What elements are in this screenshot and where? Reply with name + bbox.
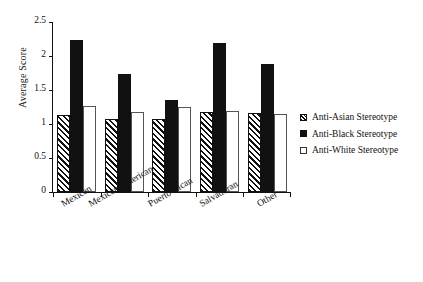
x-label-cell: Other	[242, 196, 290, 262]
bar-group	[243, 22, 291, 192]
legend-item: Anti-White Stereotype	[300, 145, 423, 155]
bar-groups	[53, 22, 291, 192]
bar-solid	[165, 100, 178, 192]
bar-hatched	[105, 119, 118, 192]
bar-hatched	[200, 112, 213, 192]
bar-group	[101, 22, 149, 192]
y-tick-label: 0	[41, 185, 46, 195]
legend-label: Anti-Black Stereotype	[312, 129, 397, 139]
bar-group	[196, 22, 244, 192]
y-tick-label: 2	[41, 49, 46, 59]
x-axis-labels: MexicanMexican AmericanPuerto RicanSalva…	[52, 196, 290, 262]
bar-solid	[213, 43, 226, 192]
legend-label: Anti-White Stereotype	[312, 145, 398, 155]
x-label-cell: Puerto Rican	[147, 196, 195, 262]
legend-swatch-icon	[300, 147, 307, 154]
legend-swatch-icon	[300, 114, 307, 121]
legend-item: Anti-Black Stereotype	[300, 129, 423, 139]
legend-item: Anti-Asian Stereotype	[300, 112, 423, 122]
plot-area: 00.511.522.5	[52, 22, 291, 193]
legend: Anti-Asian StereotypeAnti-Black Stereoty…	[300, 112, 423, 162]
bar-chart: Average Score 00.511.522.5 MexicanMexica…	[0, 0, 423, 282]
y-tick-label: 2.5	[34, 15, 46, 25]
bar-hatched	[152, 119, 165, 192]
bar-hatched	[248, 113, 261, 192]
y-tick-label: 1.5	[34, 83, 46, 93]
legend-label: Anti-Asian Stereotype	[312, 112, 397, 122]
bar-solid	[70, 40, 83, 192]
bar-open	[274, 114, 287, 192]
x-label-cell: Mexican American	[100, 196, 148, 262]
y-tick-label: 1	[41, 117, 46, 127]
bar-open	[83, 106, 96, 192]
x-label-cell: Salvadoran	[195, 196, 243, 262]
legend-swatch-icon	[300, 130, 307, 137]
bar-solid	[261, 64, 274, 192]
y-axis-title: Average Score	[17, 18, 28, 138]
bar-hatched	[57, 115, 70, 192]
bar-group	[148, 22, 196, 192]
bar-group	[53, 22, 101, 192]
x-tick-mark	[290, 192, 291, 197]
y-tick-label: 0.5	[34, 151, 46, 161]
